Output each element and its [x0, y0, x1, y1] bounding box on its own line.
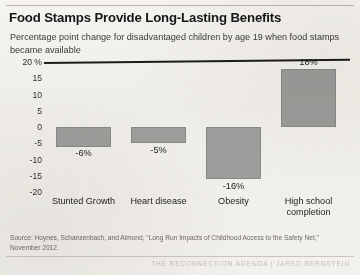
bar-value-label: -16%: [206, 181, 261, 191]
x-axis-category-label: Obesity: [190, 196, 277, 207]
y-axis-tick: -15: [30, 171, 42, 181]
plot-area: 20 %151050-5-10-15-20 -6%-5%-16%18% Stun…: [0, 62, 360, 212]
chart-title: Food Stamps Provide Long-Lasting Benefit…: [9, 11, 350, 26]
bar: [56, 127, 111, 147]
bar: [206, 127, 261, 179]
y-axis-tick: -5: [34, 138, 42, 148]
y-axis-tick: 10: [32, 90, 42, 100]
y-axis-tick: 0: [37, 122, 42, 132]
chart-subtitle: Percentage point change for disadvantage…: [10, 31, 348, 57]
chart-figure: Food Stamps Provide Long-Lasting Benefit…: [0, 0, 360, 275]
x-axis-category-label: Heart disease: [115, 196, 202, 207]
bar-value-label: -5%: [131, 145, 186, 155]
x-axis-category-label: Stunted Growth: [40, 196, 127, 207]
x-axis-category-label: High school completion: [265, 196, 352, 219]
watermark: THE RECONNECTION AGENDA | JARED BERNSTEI…: [151, 260, 350, 267]
y-axis-tick: 15: [32, 73, 42, 83]
bar-series: -6%-5%-16%18%: [46, 62, 346, 192]
bar-column: -6%: [56, 62, 111, 192]
bar: [281, 69, 336, 128]
bar: [131, 127, 186, 143]
y-axis-tick: -10: [30, 155, 42, 165]
y-axis: 20 %151050-5-10-15-20: [0, 62, 44, 192]
y-axis-tick: 20 %: [22, 57, 42, 67]
top-divider: [6, 5, 354, 6]
bottom-divider: [6, 256, 354, 257]
bar-value-label: -6%: [56, 148, 111, 158]
source-note: Source: Hoynes, Schanzenbach, and Almond…: [10, 233, 334, 253]
bar-column: 18%: [281, 62, 336, 192]
bar-column: -5%: [131, 62, 186, 192]
bar-column: -16%: [206, 62, 261, 192]
y-axis-tick: 5: [37, 106, 42, 116]
